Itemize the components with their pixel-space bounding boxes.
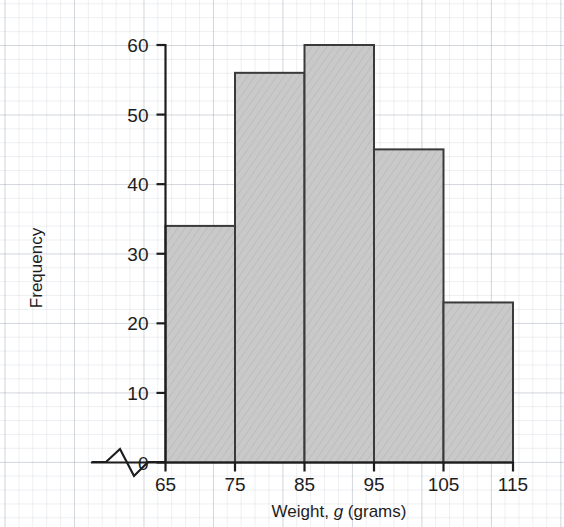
frequency-histogram-chart: 0102030405060 65758595105115 Frequency W… — [0, 0, 564, 527]
x-tick-label: 75 — [224, 474, 245, 495]
histogram-bar — [444, 302, 514, 462]
y-tick-label: 50 — [127, 105, 148, 126]
y-tick-label: 30 — [127, 244, 148, 265]
x-axis-title-pre: Weight, — [272, 502, 334, 521]
histogram-bar — [235, 73, 305, 463]
histogram-bar — [305, 45, 375, 463]
x-tick-label: 115 — [498, 474, 528, 495]
y-tick-label: 20 — [127, 313, 148, 334]
x-tick-label: 65 — [155, 474, 176, 495]
histogram-bar — [374, 149, 444, 462]
histogram-screenshot: 0102030405060 65758595105115 Frequency W… — [0, 0, 564, 527]
x-tick-label: 95 — [363, 474, 384, 495]
x-tick-label: 85 — [294, 474, 315, 495]
histogram-bars — [166, 45, 514, 463]
y-tick-label: 60 — [127, 35, 148, 56]
x-axis-ticks: 65758595105115 — [155, 463, 528, 495]
y-axis-ticks: 0102030405060 — [127, 35, 165, 474]
x-tick-label: 105 — [428, 474, 460, 495]
x-axis-title: Weight, g (grams) — [272, 502, 407, 521]
y-tick-label: 10 — [127, 383, 148, 404]
y-axis-title: Frequency — [27, 227, 46, 308]
y-tick-label: 0 — [138, 453, 149, 474]
y-tick-label: 40 — [127, 174, 148, 195]
x-axis-title-post: (grams) — [343, 502, 406, 521]
histogram-bar — [166, 226, 236, 463]
